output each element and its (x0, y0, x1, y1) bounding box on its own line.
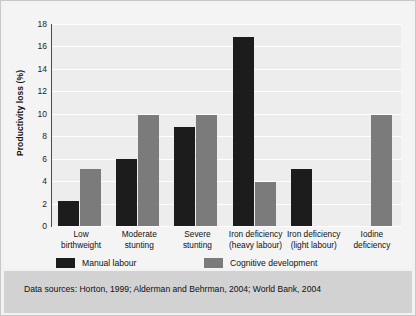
bar-manual-labour (58, 201, 79, 226)
footer-band: Data sources: Horton, 1999; Alderman and… (4, 271, 412, 313)
category-label-line: Iodine (336, 229, 408, 240)
legend-swatch-icon (204, 258, 223, 268)
y-tick-label-16: 16 (7, 42, 47, 50)
y-tick-label-12: 12 (7, 87, 47, 95)
y-axis-title: Productivity loss (%) (15, 43, 25, 183)
gridline-0 (52, 226, 401, 227)
y-axis-ticks: 024681012141618 (4, 4, 47, 249)
y-tick-label-8: 8 (7, 132, 47, 140)
y-tick-label-4: 4 (7, 177, 47, 185)
bar-manual-labour (291, 169, 312, 226)
bar-cognitive-development (196, 115, 217, 226)
y-tick-label-18: 18 (7, 20, 47, 28)
legend-label: Cognitive development (230, 257, 317, 269)
bar-group (227, 24, 285, 226)
legend-label: Manual labour (82, 257, 136, 269)
figure-container: 024681012141618 Productivity loss (%) Lo… (0, 0, 416, 316)
bar-cognitive-development (138, 115, 159, 226)
bar-group (285, 24, 343, 226)
y-tick-label-6: 6 (7, 155, 47, 163)
bar-manual-labour (233, 37, 254, 226)
category-label: Iodinedeficiency (336, 229, 408, 250)
bar-manual-labour (116, 159, 137, 226)
bar-group (52, 24, 110, 226)
category-label-line: deficiency (336, 240, 408, 251)
bar-group (168, 24, 226, 226)
legend-swatch-icon (56, 258, 75, 268)
y-tick-label-14: 14 (7, 65, 47, 73)
x-axis-category-labels: LowbirthweightModeratestuntingSeverestun… (52, 229, 401, 259)
y-tick-label-0: 0 (7, 222, 47, 230)
y-tick-label-10: 10 (7, 110, 47, 118)
bar-cognitive-development (80, 169, 101, 226)
y-tick-label-2: 2 (7, 200, 47, 208)
chart-card: 024681012141618 Productivity loss (%) Lo… (4, 4, 412, 269)
data-sources-text: Data sources: Horton, 1999; Alderman and… (24, 284, 321, 294)
plot-area (52, 24, 401, 226)
chart-legend: Manual labourCognitive development (56, 257, 396, 271)
bar-manual-labour (174, 127, 195, 226)
bar-cognitive-development (371, 115, 392, 226)
bar-group (343, 24, 401, 226)
bar-group (110, 24, 168, 226)
bar-cognitive-development (255, 182, 276, 226)
